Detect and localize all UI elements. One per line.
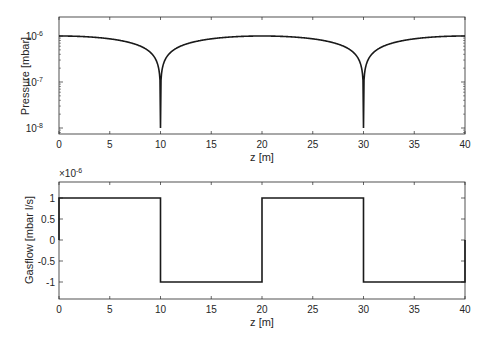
x-tick-label: 15: [206, 139, 218, 150]
exponent-label: ×10-6: [59, 167, 82, 179]
x-tick-label: 15: [206, 304, 218, 315]
y-tick-label: 10-8: [26, 122, 43, 134]
top-ylabel: Pressure [mbar]: [19, 37, 31, 115]
y-tick-label: 0.5: [41, 214, 55, 225]
x-tick-label: 35: [409, 139, 421, 150]
x-tick-label: 35: [409, 304, 421, 315]
x-tick-label: 0: [56, 304, 62, 315]
x-tick-label: 0: [56, 139, 62, 150]
y-tick-label: 1: [49, 193, 55, 204]
pressure-axes: 0510152025303540 10-610-710-8 z [m] Pres…: [19, 17, 471, 163]
top-xlabel: z [m]: [250, 151, 274, 163]
x-tick-label: 10: [155, 139, 167, 150]
figure: 0510152025303540 10-610-710-8 z [m] Pres…: [0, 0, 492, 341]
x-tick-label: 30: [358, 304, 370, 315]
y-tick-label: -0.5: [38, 256, 56, 267]
x-tick-label: 5: [107, 139, 113, 150]
gasflow-axes: 0510152025303540 10.50-0.5-1 ×10-6 z [m]…: [23, 167, 471, 328]
x-tick-label: 40: [459, 139, 471, 150]
x-tick-label: 30: [358, 139, 370, 150]
x-tick-label: 5: [107, 304, 113, 315]
y-tick-label: 0: [49, 235, 55, 246]
x-tick-label: 10: [155, 304, 167, 315]
x-tick-label: 20: [256, 139, 268, 150]
x-tick-label: 40: [459, 304, 471, 315]
x-tick-label: 20: [256, 304, 268, 315]
bottom-xlabel: z [m]: [250, 316, 274, 328]
bottom-ylabel: Gasflow [mbar l/s]: [23, 196, 35, 284]
x-tick-label: 25: [307, 139, 319, 150]
y-tick-label: -1: [46, 277, 55, 288]
x-tick-label: 25: [307, 304, 319, 315]
